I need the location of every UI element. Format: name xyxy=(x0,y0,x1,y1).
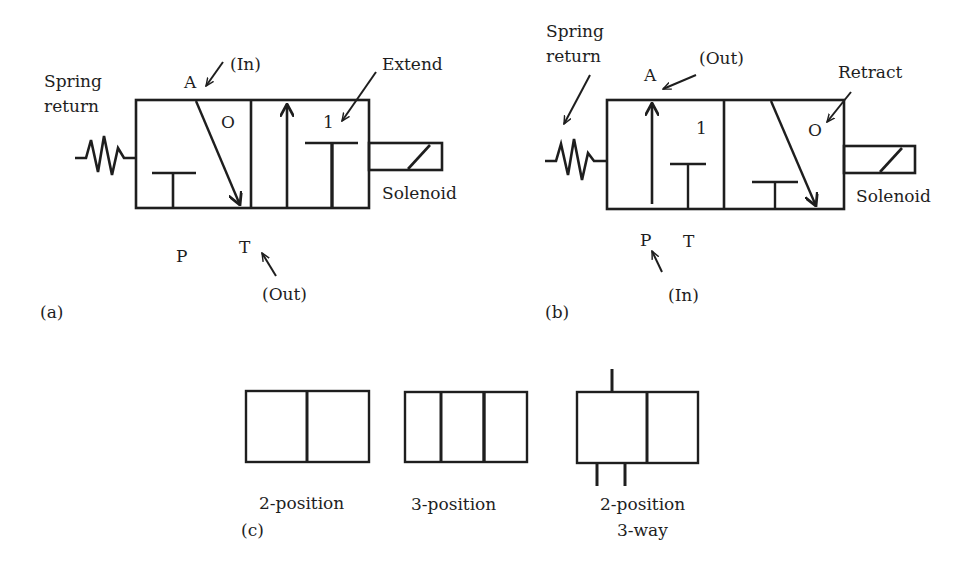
valve-body xyxy=(136,100,369,208)
panel-b-retract-valve: Spring return A (Out) Retract 1 O Soleno… xyxy=(545,21,931,322)
symbol-2-position-3-way: 2-position 3-way xyxy=(577,369,698,540)
symbol-label: 3-position xyxy=(411,494,496,514)
valve-diagram-canvas: Spring return A (In) Extend O 1 Solenoid… xyxy=(0,0,970,570)
port-a-flow-label: (In) xyxy=(230,54,261,74)
valve-body xyxy=(607,100,844,209)
pointer-arrow-icon xyxy=(827,92,851,122)
spring-icon xyxy=(545,139,607,180)
spring-return-label: Spring xyxy=(44,71,102,91)
solenoid-coil-slash xyxy=(880,148,902,172)
pointer-arrow-icon xyxy=(206,62,223,86)
port-a-label: A xyxy=(183,72,197,92)
retract-label: Retract xyxy=(838,62,902,82)
port-t-label: T xyxy=(683,231,695,251)
symbol-label: 3-way xyxy=(617,520,668,540)
panel-c-valve-symbols: 2-position 3-position 2-position 3-way (… xyxy=(241,369,698,540)
symbol-label: 2-position xyxy=(259,493,344,513)
symbol-label: 2-position xyxy=(600,494,685,514)
valve-envelope xyxy=(577,392,698,463)
flow-arrow-a-to-t xyxy=(771,101,816,206)
position-1-label: 1 xyxy=(323,112,334,132)
port-p-label: P xyxy=(176,246,187,266)
spring-return-label: return xyxy=(546,46,601,66)
position-o-label: O xyxy=(808,120,822,140)
panel-b-caption: (b) xyxy=(545,302,569,322)
panel-a-caption: (a) xyxy=(40,302,63,322)
valve-envelope xyxy=(405,392,527,462)
panel-a-extend-valve: Spring return A (In) Extend O 1 Solenoid… xyxy=(40,54,457,322)
port-t-label: T xyxy=(239,237,251,257)
port-a-flow-label: (Out) xyxy=(699,48,744,68)
position-o-label: O xyxy=(221,112,235,132)
solenoid-coil-slash xyxy=(408,145,430,169)
pointer-arrow-icon xyxy=(652,251,662,272)
symbol-3-position: 3-position xyxy=(405,392,527,514)
position-1-label: 1 xyxy=(696,118,707,138)
pointer-arrow-icon xyxy=(564,75,590,124)
solenoid-icon xyxy=(844,146,915,173)
pointer-arrow-icon xyxy=(342,72,376,121)
solenoid-label: Solenoid xyxy=(856,186,931,206)
spring-return-label: return xyxy=(44,96,99,116)
port-p-label: P xyxy=(640,230,651,250)
panel-c-caption: (c) xyxy=(241,520,264,540)
spring-icon xyxy=(75,136,136,175)
port-a-label: A xyxy=(643,65,657,85)
pointer-arrow-icon xyxy=(663,75,696,89)
port-p-flow-label: (In) xyxy=(668,285,699,305)
solenoid-label: Solenoid xyxy=(382,183,457,203)
port-t-flow-label: (Out) xyxy=(262,284,307,304)
spring-return-label: Spring xyxy=(546,21,604,41)
solenoid-icon xyxy=(369,143,442,170)
symbol-2-position: 2-position xyxy=(246,391,369,513)
extend-label: Extend xyxy=(382,54,443,74)
pointer-arrow-icon xyxy=(262,253,276,276)
